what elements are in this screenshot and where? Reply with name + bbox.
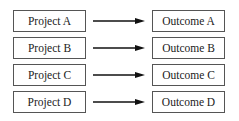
outcome-box: Outcome D xyxy=(152,91,225,113)
outcome-box: Outcome B xyxy=(152,37,225,59)
row-c: Project C Outcome C xyxy=(0,64,239,86)
project-box: Project C xyxy=(13,64,86,86)
outcome-box: Outcome A xyxy=(152,10,225,32)
row-a: Project A Outcome A xyxy=(0,10,239,32)
arrow-right-icon xyxy=(93,10,145,32)
arrow-right-icon xyxy=(93,64,145,86)
project-box: Project D xyxy=(13,91,86,113)
row-d: Project D Outcome D xyxy=(0,91,239,113)
row-b: Project B Outcome B xyxy=(0,37,239,59)
outcome-box: Outcome C xyxy=(152,64,225,86)
arrow-right-icon xyxy=(93,37,145,59)
project-box: Project B xyxy=(13,37,86,59)
project-box: Project A xyxy=(13,10,86,32)
arrow-right-icon xyxy=(93,91,145,113)
